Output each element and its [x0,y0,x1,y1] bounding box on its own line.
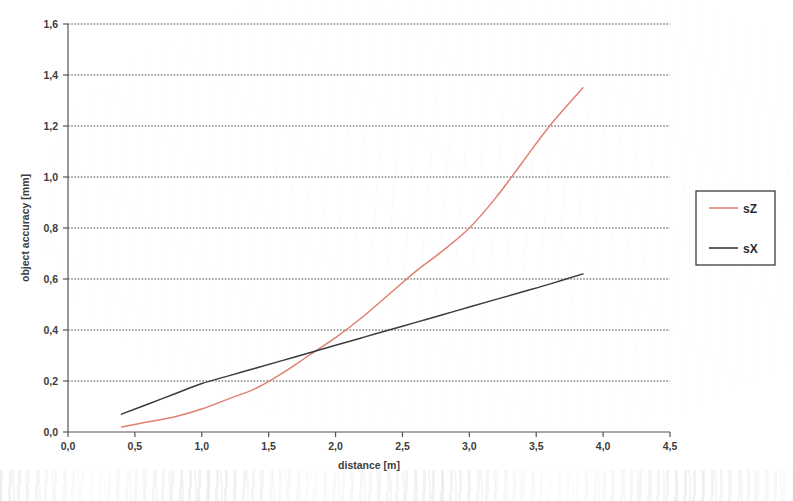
y-tick-label: 1,6 [43,18,58,30]
y-axis-ticks-group: 0,00,20,40,60,81,01,21,41,6 [43,18,68,438]
data-series-group [122,88,584,427]
x-tick-label: 4,5 [663,440,678,452]
y-tick-label: 1,2 [43,120,58,132]
y-tick-label: 0,4 [43,324,58,336]
x-axis-title: distance [m] [338,459,400,471]
x-tick-label: 3,0 [462,440,477,452]
x-tick-label: 0,0 [61,440,76,452]
line-chart-plot: 0,00,20,40,60,81,01,21,41,6 0,00,51,01,5… [0,0,793,501]
series-line-sx [122,274,584,414]
series-line-sz [122,88,584,427]
y-tick-label: 0,6 [43,273,58,285]
x-tick-label: 0,5 [128,440,143,452]
y-tick-label: 1,0 [43,171,58,183]
legend-label-sx: sX [743,242,758,256]
x-tick-label: 4,0 [596,440,611,452]
x-tick-label: 2,0 [328,440,343,452]
legend-box: sZsX [696,191,775,265]
y-axis-title: object accuracy [mm] [19,174,31,282]
x-tick-label: 3,5 [529,440,544,452]
gridlines-group [68,24,670,381]
x-axis-ticks-group: 0,00,51,01,52,02,53,03,54,04,5 [61,432,678,452]
y-tick-label: 0,8 [43,222,58,234]
y-tick-label: 0,0 [43,426,58,438]
legend-label-sz: sZ [743,202,757,216]
x-tick-label: 1,5 [261,440,276,452]
chart-figure: 0,00,20,40,60,81,01,21,41,6 0,00,51,01,5… [0,0,793,501]
y-tick-label: 1,4 [43,69,58,81]
y-tick-label: 0,2 [43,375,58,387]
x-tick-label: 2,5 [395,440,410,452]
x-tick-label: 1,0 [194,440,209,452]
